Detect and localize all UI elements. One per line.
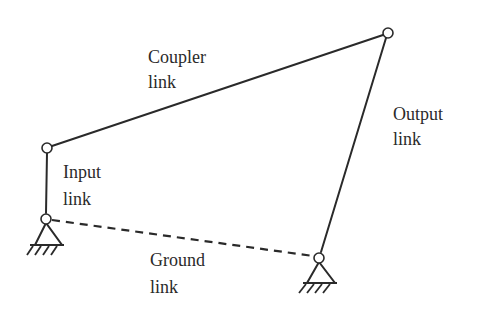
output-ground-pivot-joint bbox=[314, 253, 324, 263]
ground-label-line2: link bbox=[150, 277, 178, 297]
left-ground-support-icon bbox=[27, 223, 64, 255]
output-label-line1: Output bbox=[393, 104, 443, 124]
four-bar-linkage-diagram: Coupler link Output link Input link Grou… bbox=[0, 0, 482, 314]
input-label-line1: Input bbox=[63, 162, 101, 182]
coupler-link-label: Coupler link bbox=[148, 47, 206, 92]
coupler-output-joint bbox=[383, 28, 393, 38]
input-label-line2: link bbox=[63, 189, 91, 209]
right-ground-support-icon bbox=[299, 262, 337, 293]
output-link-label: Output link bbox=[393, 104, 443, 149]
input-ground-pivot-joint bbox=[41, 214, 51, 224]
input-link-line bbox=[46, 153, 47, 213]
input-coupler-joint bbox=[42, 143, 52, 153]
coupler-label-line2: link bbox=[148, 72, 176, 92]
coupler-link-line bbox=[52, 35, 383, 146]
ground-link-label: Ground link bbox=[150, 250, 205, 297]
linkage-svg: Coupler link Output link Input link Grou… bbox=[0, 0, 482, 314]
ground-label-line1: Ground bbox=[150, 250, 205, 270]
output-label-line2: link bbox=[393, 129, 421, 149]
input-link-label: Input link bbox=[63, 162, 101, 209]
output-link-line bbox=[321, 38, 386, 252]
coupler-label-line1: Coupler bbox=[148, 47, 206, 67]
